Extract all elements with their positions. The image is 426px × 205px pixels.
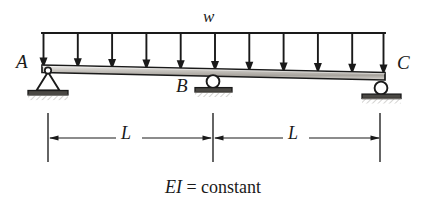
dimension-group bbox=[48, 113, 380, 162]
support-label-b: B bbox=[176, 76, 188, 95]
beam-diagram-figure: w A B C L L EI = constant bbox=[0, 0, 426, 205]
support-c-roller bbox=[362, 82, 401, 104]
dimension-label-right-span: L bbox=[288, 124, 298, 142]
support-b-roller bbox=[195, 75, 232, 97]
support-label-a: A bbox=[16, 52, 28, 71]
caption-text: = constant bbox=[182, 177, 261, 197]
dimension-label-left-span: L bbox=[121, 124, 131, 142]
caption-symbol: EI bbox=[165, 177, 182, 197]
load-label-w: w bbox=[203, 8, 214, 25]
diagram-canvas bbox=[0, 0, 426, 205]
figure-caption: EI = constant bbox=[0, 178, 426, 196]
support-label-c: C bbox=[397, 53, 410, 72]
